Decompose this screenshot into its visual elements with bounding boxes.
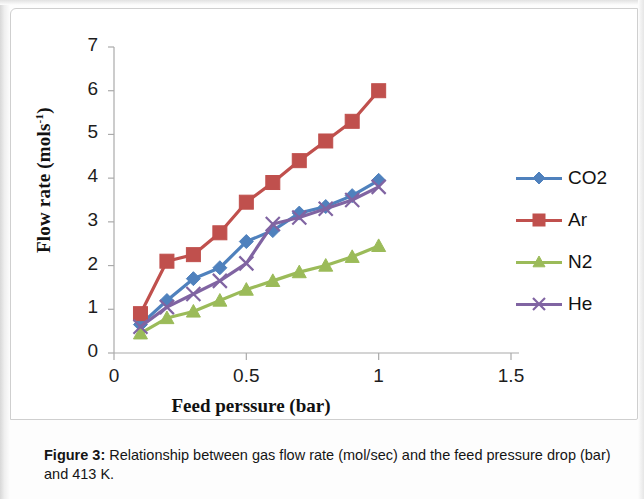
y-axis-title-base: Flow rate (mols <box>33 123 54 253</box>
legend-item-He[interactable]: He <box>516 283 636 325</box>
data-marker-square <box>345 114 359 128</box>
legend-label-CO2: CO2 <box>568 167 607 189</box>
y-axis-title: Flow rate (mols-1) <box>33 55 55 305</box>
document-page: Flow rate (mols-1) Feed perssure (bar) 0… <box>0 0 644 499</box>
data-marker-diamond <box>533 172 545 184</box>
x-axis-tick-label: 1 <box>349 365 409 387</box>
data-marker-square <box>266 176 280 190</box>
y-axis-tick-label: 0 <box>58 340 98 362</box>
x-axis-tick-label: 0 <box>84 365 144 387</box>
x-axis-title: Feed perssure (bar) <box>71 395 431 417</box>
chart-legend: CO2ArN2He <box>516 157 636 325</box>
data-marker-triangle <box>372 239 386 252</box>
data-marker-square <box>160 254 174 268</box>
legend-label-Ar: Ar <box>568 209 587 231</box>
legend-marker-triangle-icon <box>532 255 546 269</box>
data-marker-cross <box>186 287 200 301</box>
y-axis-tick-label: 1 <box>58 296 98 318</box>
legend-item-N2[interactable]: N2 <box>516 241 636 283</box>
legend-marker-diamond-icon <box>532 171 546 185</box>
data-marker-square <box>213 226 227 240</box>
scan-edge-top <box>0 0 644 5</box>
y-axis-title-exponent: -1 <box>33 114 45 124</box>
legend-key-He <box>516 295 562 313</box>
figure-caption-text: Relationship between gas flow rate (mol/… <box>44 447 611 482</box>
data-marker-cross <box>213 274 227 288</box>
legend-marker-square-icon <box>532 213 546 227</box>
line-chart: Flow rate (mols-1) Feed perssure (bar) 0… <box>11 9 639 421</box>
x-axis-tick-label: 0.5 <box>216 365 276 387</box>
y-axis-tick-label: 7 <box>58 34 98 56</box>
legend-label-N2: N2 <box>568 251 592 273</box>
scan-edge-left <box>0 0 10 499</box>
legend-item-Ar[interactable]: Ar <box>516 199 636 241</box>
x-axis-tick-label: 1.5 <box>481 365 541 387</box>
data-marker-cross <box>239 256 253 270</box>
data-marker-square <box>292 154 306 168</box>
y-axis-tick-label: 5 <box>58 121 98 143</box>
chart-series <box>133 84 385 339</box>
y-axis-tick-label: 6 <box>58 78 98 100</box>
legend-key-N2 <box>516 253 562 271</box>
figure-caption: Figure 3: Relationship between gas flow … <box>44 446 634 484</box>
figure-caption-label: Figure 3: <box>44 447 105 463</box>
data-marker-triangle <box>533 256 545 267</box>
y-axis-tick-label: 3 <box>58 209 98 231</box>
data-marker-square <box>533 214 545 226</box>
y-axis-tick-label: 4 <box>58 165 98 187</box>
figure-panel: Flow rate (mols-1) Feed perssure (bar) 0… <box>10 8 638 420</box>
legend-key-Ar <box>516 211 562 229</box>
legend-key-CO2 <box>516 169 562 187</box>
data-marker-square <box>133 307 147 321</box>
legend-item-CO2[interactable]: CO2 <box>516 157 636 199</box>
legend-marker-cross-icon <box>532 297 546 311</box>
data-marker-square <box>372 84 386 98</box>
data-marker-cross <box>533 298 545 310</box>
series-line <box>140 187 378 327</box>
data-marker-diamond <box>372 173 386 187</box>
data-marker-square <box>239 195 253 209</box>
data-marker-square <box>319 134 333 148</box>
chart-axes <box>108 47 519 360</box>
data-marker-square <box>186 248 200 262</box>
y-axis-tick-label: 2 <box>58 253 98 275</box>
legend-label-He: He <box>568 293 592 315</box>
y-axis-title-tail: ) <box>33 107 54 114</box>
